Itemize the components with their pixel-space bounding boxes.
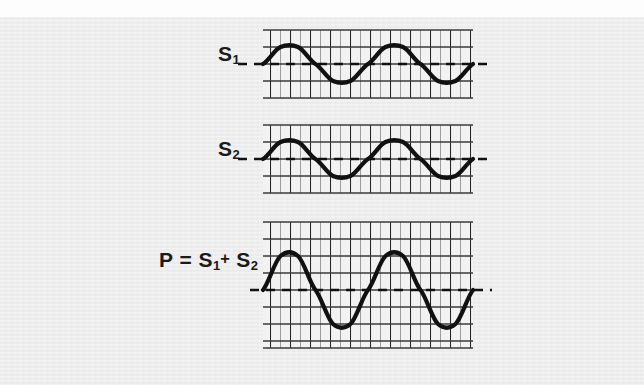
s2-label-symbol: S	[218, 137, 233, 160]
s2-waveform-panel	[230, 121, 498, 199]
s1-label: S1	[218, 42, 240, 66]
p-label-lead: P = S	[159, 248, 213, 271]
s2-label-subscript: 2	[233, 147, 240, 162]
s1-plot-svg	[230, 26, 498, 104]
wave-superposition-figure: S1 S	[0, 0, 644, 385]
p-label-plus-sign: +	[220, 249, 230, 267]
p-label-s2-symbol: S	[236, 248, 251, 271]
p-label: P = S1+ S2	[159, 248, 258, 272]
s1-waveform-panel	[230, 26, 498, 104]
p-label-subscript-2: 2	[251, 258, 258, 273]
p-waveform-panel	[230, 218, 498, 354]
page-top-margin	[0, 0, 644, 17]
p-plot-svg	[230, 218, 498, 354]
s2-label: S2	[218, 137, 240, 161]
s1-label-subscript: 1	[233, 52, 240, 67]
s2-plot-svg	[230, 121, 498, 199]
s1-label-symbol: S	[218, 42, 233, 65]
p-grid-vertical-bold	[263, 222, 473, 348]
